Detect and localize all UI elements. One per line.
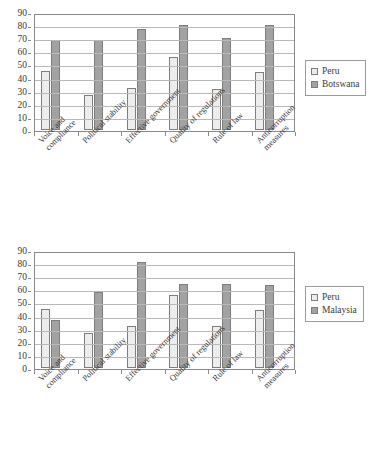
legend-label: Botswana (322, 79, 359, 90)
y-tick-mark (28, 252, 31, 253)
y-tick-label: 70 (18, 35, 28, 45)
gridline (35, 80, 294, 81)
chart-peru-malaysia: 0102030405060708090 Voice and compliance… (0, 246, 369, 456)
y-tick-label: 0 (22, 127, 27, 137)
bar-groups-top (36, 16, 293, 130)
bar-group (207, 254, 250, 368)
gridline (35, 265, 294, 266)
legend-swatch-icon (311, 81, 318, 88)
y-tick-mark (28, 93, 31, 94)
y-tick-label: 60 (18, 49, 28, 59)
y-tick-label: 50 (18, 300, 28, 310)
plot-area-bottom (34, 252, 295, 370)
y-tick-label: 40 (18, 313, 28, 323)
y-tick-mark (28, 265, 31, 266)
y-tick-label: 20 (18, 101, 28, 111)
gridline (35, 40, 294, 41)
y-tick-label: 10 (18, 352, 28, 362)
y-tick-label: 80 (18, 260, 28, 270)
legend-swatch-icon (311, 68, 318, 75)
y-axis-bottom: 0102030405060708090 (0, 252, 31, 370)
y-tick-label: 30 (18, 326, 28, 336)
y-tick-mark (28, 80, 31, 81)
y-tick-mark (28, 40, 31, 41)
bar-group (207, 16, 250, 130)
bar-peru (127, 88, 136, 130)
y-tick-mark (28, 66, 31, 67)
gridline (35, 278, 294, 279)
y-tick-label: 60 (18, 287, 28, 297)
y-tick-label: 70 (18, 273, 28, 283)
gridline (35, 93, 294, 94)
y-tick-label: 30 (18, 88, 28, 98)
chart-peru-botswana: 0102030405060708090 Voice and compliance… (0, 8, 369, 230)
x-axis-labels-top: Voice and compliancePolitical stabilityE… (34, 136, 334, 228)
y-tick-label: 90 (18, 247, 28, 257)
legend-label: Malaysia (322, 305, 357, 316)
x-axis-labels-bottom: Voice and compliancePolitical stabilityE… (34, 374, 334, 459)
legend-item: Peru (311, 65, 359, 78)
gridline (35, 66, 294, 67)
y-tick-mark (28, 318, 31, 319)
y-tick-label: 90 (18, 9, 28, 19)
y-tick-mark (28, 344, 31, 345)
y-tick-label: 50 (18, 62, 28, 72)
legend-item: Malaysia (311, 304, 357, 317)
y-tick-mark (28, 304, 31, 305)
gridline (35, 331, 294, 332)
gridline (35, 318, 294, 319)
legend-top: PeruBotswana (305, 60, 366, 96)
y-tick-mark (28, 278, 31, 279)
y-tick-mark (28, 27, 31, 28)
legend-label: Peru (322, 66, 339, 77)
gridline (35, 27, 294, 28)
y-axis-top: 0102030405060708090 (0, 14, 31, 132)
plot-area-top (34, 14, 295, 132)
y-tick-mark (28, 132, 31, 133)
bar-peru (255, 310, 264, 368)
chart-page: 0102030405060708090 Voice and compliance… (0, 0, 369, 459)
bar-groups-bottom (36, 254, 293, 368)
legend-swatch-icon (311, 307, 318, 314)
y-tick-label: 80 (18, 22, 28, 32)
legend-label: Peru (322, 292, 339, 303)
legend-bottom: PeruMalaysia (305, 286, 364, 322)
y-tick-mark (28, 53, 31, 54)
bar-peru (127, 326, 136, 368)
gridline (35, 304, 294, 305)
y-tick-mark (28, 291, 31, 292)
bar-group (36, 254, 79, 368)
y-tick-label: 40 (18, 75, 28, 85)
legend-item: Peru (311, 291, 357, 304)
bar-group (36, 16, 79, 130)
y-tick-label: 20 (18, 339, 28, 349)
y-tick-mark (28, 370, 31, 371)
legend-swatch-icon (311, 294, 318, 301)
y-tick-mark (28, 119, 31, 120)
gridline (35, 53, 294, 54)
y-tick-label: 0 (22, 365, 27, 375)
y-tick-mark (28, 14, 31, 15)
legend-item: Botswana (311, 78, 359, 91)
y-tick-mark (28, 106, 31, 107)
y-tick-mark (28, 331, 31, 332)
y-tick-mark (28, 357, 31, 358)
bar-peru (255, 72, 264, 130)
y-tick-label: 10 (18, 114, 28, 124)
gridline (35, 291, 294, 292)
